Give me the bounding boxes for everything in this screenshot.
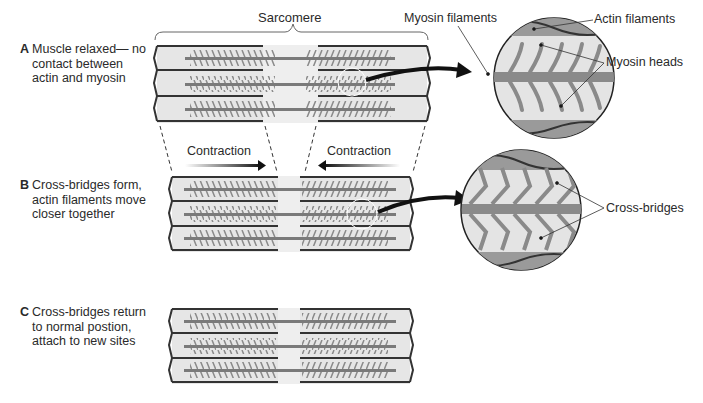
stage-a-line-1: Muscle relaxed— no (32, 42, 146, 56)
sarcomere-contracted (169, 176, 413, 252)
stage-b-line-2: actin filaments move (20, 193, 146, 208)
stage-b-label: BCross-bridges form, actin filaments mov… (20, 178, 146, 222)
contraction-arrow-left (318, 160, 400, 171)
stage-b-line-3: closer together (20, 207, 146, 222)
sarcomere-reset (169, 308, 413, 384)
contraction-label-left: Contraction (187, 144, 251, 158)
stage-c-line-2: to normal postion, (20, 320, 146, 335)
stage-b-letter: B (20, 178, 29, 192)
stage-c-line-1: Cross-bridges return (32, 305, 146, 319)
stage-c-line-3: attach to new sites (20, 334, 146, 349)
magnified-relaxed (490, 16, 620, 140)
stage-b-line-1: Cross-bridges form, (32, 178, 142, 192)
contraction-label-right: Contraction (327, 144, 391, 158)
sarcomere-relaxed (154, 45, 430, 123)
magnified-cross-bridges (460, 150, 590, 272)
myosin-filaments-label: Myosin filaments (404, 11, 497, 25)
stage-a-line-2: contact between (20, 57, 146, 72)
cross-bridges-label: Cross-bridges (606, 201, 684, 215)
stage-a-letter: A (20, 42, 29, 56)
sarcomere-bracket (155, 24, 428, 40)
stage-c-label: CCross-bridges return to normal postion,… (20, 305, 146, 349)
sarcomere-label: Sarcomere (258, 10, 322, 25)
stage-a-line-3: actin and myosin (20, 71, 146, 86)
stage-a-label: AMuscle relaxed— no contact between acti… (20, 42, 146, 86)
actin-filaments-label: Actin filaments (594, 12, 675, 26)
contraction-arrow-right (185, 160, 266, 171)
stage-c-letter: C (20, 305, 29, 319)
myosin-heads-label: Myosin heads (606, 55, 683, 69)
